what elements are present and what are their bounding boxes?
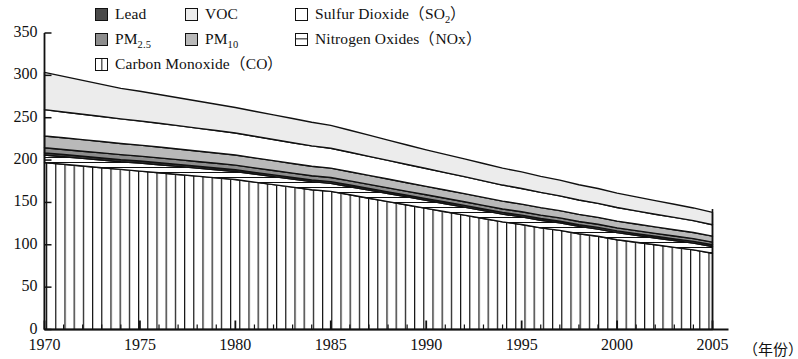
x-tick-label-1980: 1980 (205, 337, 265, 353)
y-tick-label-100: 100 (14, 236, 38, 252)
y-tick-label-250: 250 (14, 109, 38, 125)
y-tick-label-350: 350 (14, 24, 38, 40)
x-tick-label-2005: 2005 (683, 337, 743, 353)
x-tick-label-1970: 1970 (15, 337, 75, 353)
x-tick-label-2000: 2000 (587, 337, 647, 353)
x-tick-label-1990: 1990 (396, 337, 456, 353)
x-axis-unit-label: （年份） (743, 338, 798, 359)
y-tick-label-200: 200 (14, 151, 38, 167)
x-tick-label-1985: 1985 (301, 337, 361, 353)
x-tick-label-1975: 1975 (110, 337, 170, 353)
y-tick-label-0: 0 (30, 321, 38, 337)
x-tick-label-1995: 1995 (492, 337, 552, 353)
y-tick-label-300: 300 (14, 66, 38, 82)
y-tick-label-150: 150 (14, 193, 38, 209)
chart-series-areas (45, 72, 713, 329)
y-tick-label-50: 50 (22, 278, 38, 294)
